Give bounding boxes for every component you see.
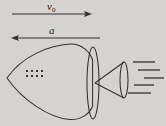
payload-dot <box>36 70 38 72</box>
physics-figure: v0 a <box>0 0 166 126</box>
figure-canvas <box>0 0 166 126</box>
payload-dot <box>41 75 43 77</box>
velocity-label: v0 <box>47 1 55 12</box>
payload-dot <box>36 75 38 77</box>
payload-dot <box>31 70 33 72</box>
payload-dot <box>41 70 43 72</box>
payload-dot <box>31 75 33 77</box>
payload-dot <box>26 70 28 72</box>
acceleration-label: a <box>49 25 55 36</box>
payload-dot <box>26 75 28 77</box>
velocity-label-subscript: 0 <box>52 6 56 14</box>
figure-background <box>0 0 166 126</box>
